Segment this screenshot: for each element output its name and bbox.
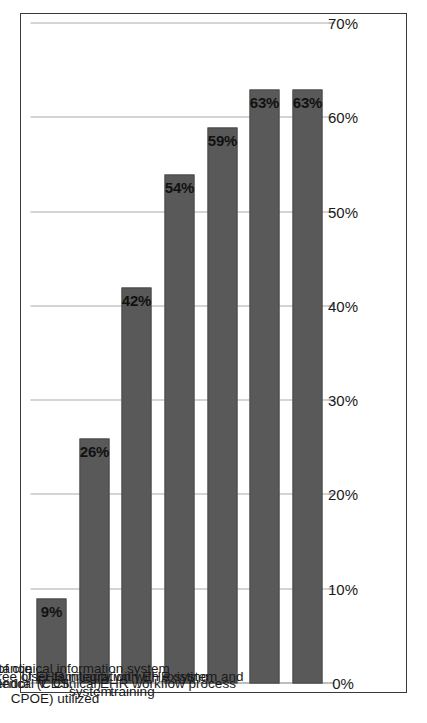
bar-value-label: 9% (34, 603, 68, 620)
bar-value-label: 63% (290, 94, 324, 111)
bar-4[interactable] (164, 174, 194, 683)
bar-value-label: 54% (162, 178, 196, 195)
plot-wrapper: 9%26%42%54%59%63%63% Contractual protect… (22, 15, 405, 691)
bar-3[interactable] (121, 287, 151, 683)
bar-2[interactable] (79, 438, 109, 683)
bar-row: 59% (207, 23, 237, 683)
plot-area: 9%26%42%54%59%63%63% (30, 23, 328, 683)
value-axis-tick-label: 30% (323, 392, 363, 409)
value-axis-tick-label: 20% (323, 486, 363, 503)
bar-value-label: 42% (119, 292, 153, 309)
value-axis-tick-label: 40% (323, 297, 363, 314)
value-axis-tick-label: 50% (323, 203, 363, 220)
bar-value-label: 59% (205, 131, 239, 148)
bar-row: 9% (36, 23, 66, 683)
bar-value-label: 26% (77, 442, 111, 459)
value-axis-tick-label: 70% (323, 15, 363, 32)
bar-row: 26% (79, 23, 109, 683)
value-axis-tick-label: 10% (323, 580, 363, 597)
bar-5[interactable] (207, 127, 237, 683)
bar-6[interactable] (249, 89, 279, 683)
bar-row: 42% (121, 23, 151, 683)
chart-canvas: 9%26%42%54%59%63%63% Contractual protect… (22, 15, 405, 691)
bar-row: 63% (292, 23, 322, 683)
bar-value-label: 63% (247, 94, 281, 111)
value-axis-tick-label: 0% (323, 675, 363, 692)
chart-figure-frame: 9%26%42%54%59%63%63% Contractual protect… (20, 13, 407, 693)
bar-row: 54% (164, 23, 194, 683)
bar-7[interactable] (292, 89, 322, 683)
value-axis-tick-label: 60% (323, 109, 363, 126)
bar-row: 63% (249, 23, 279, 683)
